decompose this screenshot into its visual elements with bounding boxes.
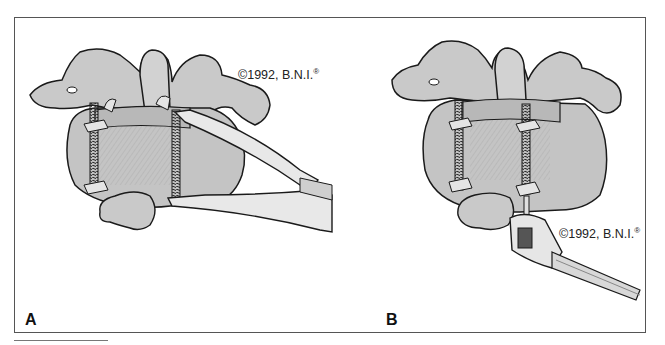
threaded-rod-left	[90, 103, 98, 191]
panel-label-b: B	[386, 311, 398, 329]
illustration-canvas	[0, 0, 665, 345]
lower-spinous-process	[100, 192, 155, 229]
copyright-notice-b: ©1992, B.N.I.®	[559, 226, 640, 241]
registered-mark: ®	[634, 226, 640, 235]
threaded-rod-left	[455, 100, 463, 190]
panel-b-illustration	[392, 41, 640, 300]
threaded-rod-right	[522, 104, 530, 194]
lower-spinous-process	[458, 193, 514, 229]
panel-label-a: A	[25, 311, 37, 329]
wrench-handle	[552, 252, 640, 300]
copyright-notice-a: ©1992, B.N.I.®	[238, 67, 319, 82]
spinous-process	[495, 48, 526, 102]
registered-mark: ®	[313, 67, 319, 76]
threaded-rod-right	[172, 110, 180, 198]
copyright-text: ©1992, B.N.I.	[559, 227, 634, 241]
pliers-lower-jaw	[168, 190, 332, 232]
copyright-text: ©1992, B.N.I.	[238, 68, 313, 82]
